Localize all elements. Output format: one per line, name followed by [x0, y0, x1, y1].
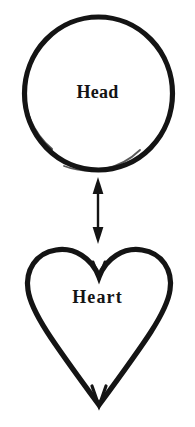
arrowhead-up-icon: [93, 177, 104, 194]
arrowhead-down-icon: [93, 227, 104, 244]
head-heart-connector[interactable]: [93, 177, 104, 244]
heart-bottom-tip-icon: [92, 386, 106, 406]
node-label-head: Head: [0, 82, 195, 103]
node-heart[interactable]: [28, 250, 171, 406]
node-label-heart: Heart: [0, 287, 195, 308]
diagram-canvas: [0, 0, 195, 427]
heart-top-cleft-icon: [93, 262, 105, 278]
heart-outline-icon: [28, 250, 171, 405]
